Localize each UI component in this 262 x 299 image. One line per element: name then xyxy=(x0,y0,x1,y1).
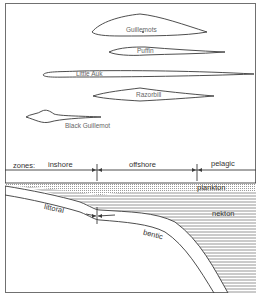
zone-label-pelagic: pelagic xyxy=(211,160,235,168)
puffin-range xyxy=(109,47,225,55)
habitat-label-plankton: plankton xyxy=(197,184,225,192)
habitat-label-nekton: nekton xyxy=(212,210,235,218)
zone-label-inshore: inshore xyxy=(48,161,73,169)
little-auk-range xyxy=(43,71,254,78)
bird-label-black-guillemot: Black Guillemot xyxy=(65,123,110,130)
bird-label-razorbill: Razorbill xyxy=(136,92,161,99)
bird-label-little-auk: Little Auk xyxy=(76,71,102,78)
bird-label-puffin: Puffin xyxy=(137,48,154,55)
black-guillemot-range xyxy=(26,110,101,122)
zone-label-offshore: offshore xyxy=(129,161,156,169)
bird-label-guillemots: Guillemots xyxy=(126,27,157,34)
marine-zone-diagram xyxy=(0,0,262,299)
zones-prefix-label: zones: xyxy=(13,162,35,170)
